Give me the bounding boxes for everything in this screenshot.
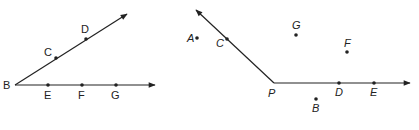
point-F (345, 50, 349, 54)
point-C (225, 37, 229, 41)
point-D (337, 81, 341, 85)
point-label: F (78, 89, 85, 101)
point-label: B (312, 102, 319, 114)
ray-0 (15, 14, 127, 85)
point-label: C (44, 46, 52, 58)
ray-0 (196, 10, 274, 83)
figure-angle-B: BCDEFG (3, 14, 155, 101)
point-label: C (216, 37, 224, 49)
vertex-label: B (3, 79, 10, 91)
point-label: A (186, 32, 194, 44)
point-label: G (111, 89, 120, 101)
point-label: D (335, 86, 343, 98)
point-label: E (44, 89, 51, 101)
point-label: F (344, 37, 352, 49)
point-label: G (292, 19, 301, 31)
figure-angle-P: PCAGFDEB (186, 10, 410, 114)
point-label: E (370, 86, 378, 98)
point-label: D (81, 23, 89, 35)
geometry-diagram: BCDEFG PCAGFDEB (0, 0, 419, 130)
vertex-label: P (268, 87, 276, 99)
point-C (54, 56, 58, 60)
point-D (84, 37, 88, 41)
point-E (372, 81, 376, 85)
point-G (294, 33, 298, 37)
point-B (314, 97, 318, 101)
point-G (114, 83, 118, 87)
point-E (46, 83, 50, 87)
point-A (195, 36, 199, 40)
point-F (80, 83, 84, 87)
